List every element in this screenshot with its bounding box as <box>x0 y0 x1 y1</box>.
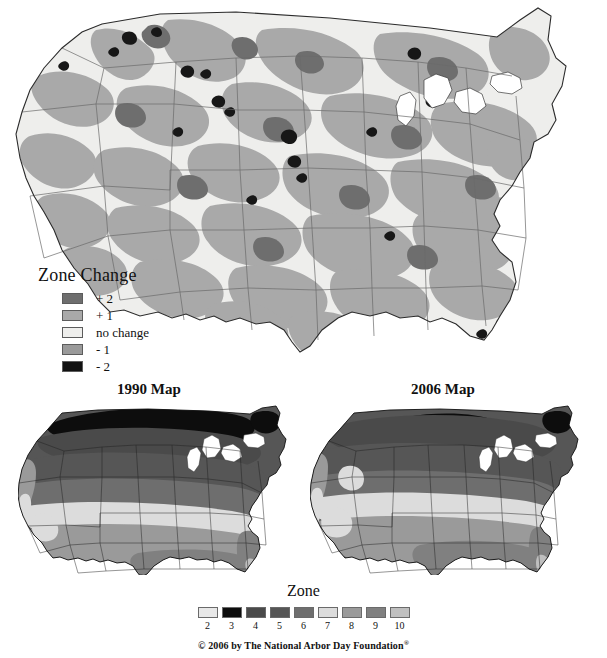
hardiness-zone-figure: Zone Change + 2 + 1 no change - 1 - 2 19… <box>0 0 607 658</box>
zone-item-8: 8 <box>342 607 362 631</box>
zone-item-7: 7 <box>318 607 338 631</box>
legend-label-minus1: - 1 <box>96 343 110 356</box>
zone-swatch-10 <box>390 607 410 618</box>
zone-number-6: 6 <box>294 621 314 631</box>
zone-swatch-5 <box>270 607 290 618</box>
zone-swatch-3 <box>222 607 242 618</box>
zone-shading-1990 <box>18 403 298 575</box>
legend-swatch-plus2 <box>62 293 83 304</box>
zone-item-3: 3 <box>222 607 242 631</box>
copyright-text: © 2006 by The National Arbor Day Foundat… <box>198 640 404 651</box>
map-title-2006: 2006 Map <box>411 381 475 398</box>
zone-swatch-6 <box>294 607 314 618</box>
legend-item-plus2: + 2 <box>38 291 208 305</box>
zone-legend-title: Zone <box>0 583 607 599</box>
zone-item-2: 2 <box>198 607 218 631</box>
zone-number-4: 4 <box>246 621 266 631</box>
zone-change-legend-title: Zone Change <box>38 266 208 284</box>
zone-number-8: 8 <box>342 621 362 631</box>
zone-swatch-8 <box>342 607 362 618</box>
legend-label-minus2: - 2 <box>96 360 110 373</box>
zone-number-7: 7 <box>318 621 338 631</box>
legend-swatch-no-change <box>62 327 83 338</box>
registered-mark: ® <box>404 639 409 647</box>
zone-legend: Zone 2 3 4 5 6 7 <box>0 583 607 631</box>
legend-item-minus2: - 2 <box>38 359 208 373</box>
zone-swatch-7 <box>318 607 338 618</box>
legend-label-plus2: + 2 <box>96 292 113 305</box>
zone-legend-swatches: 2 3 4 5 6 7 8 <box>0 607 607 631</box>
zone-change-legend: Zone Change + 2 + 1 no change - 1 - 2 <box>38 266 208 376</box>
zone-item-9: 9 <box>366 607 386 631</box>
zone-shading-2006 <box>310 403 590 575</box>
zone-swatch-4 <box>246 607 266 618</box>
legend-swatch-minus2 <box>62 361 83 372</box>
legend-label-plus1: + 1 <box>96 309 113 322</box>
zone-swatch-9 <box>366 607 386 618</box>
hardiness-map-1990 <box>18 403 298 575</box>
legend-label-no-change: no change <box>96 326 149 339</box>
zone-item-10: 10 <box>390 607 410 631</box>
zone-item-6: 6 <box>294 607 314 631</box>
zone-item-4: 4 <box>246 607 266 631</box>
zone-swatch-2 <box>198 607 218 618</box>
zone-number-10: 10 <box>390 621 410 631</box>
hardiness-map-2006 <box>310 403 590 575</box>
legend-item-minus1: - 1 <box>38 342 208 356</box>
zone-number-9: 9 <box>366 621 386 631</box>
legend-swatch-plus1 <box>62 310 83 321</box>
zone-number-2: 2 <box>198 621 218 631</box>
copyright-notice: © 2006 by The National Arbor Day Foundat… <box>0 639 607 651</box>
zone-number-5: 5 <box>270 621 290 631</box>
legend-item-no-change: no change <box>38 325 208 339</box>
map-title-1990: 1990 Map <box>117 381 181 398</box>
legend-swatch-minus1 <box>62 344 83 355</box>
legend-item-plus1: + 1 <box>38 308 208 322</box>
zone-number-3: 3 <box>222 621 242 631</box>
zone-item-5: 5 <box>270 607 290 631</box>
